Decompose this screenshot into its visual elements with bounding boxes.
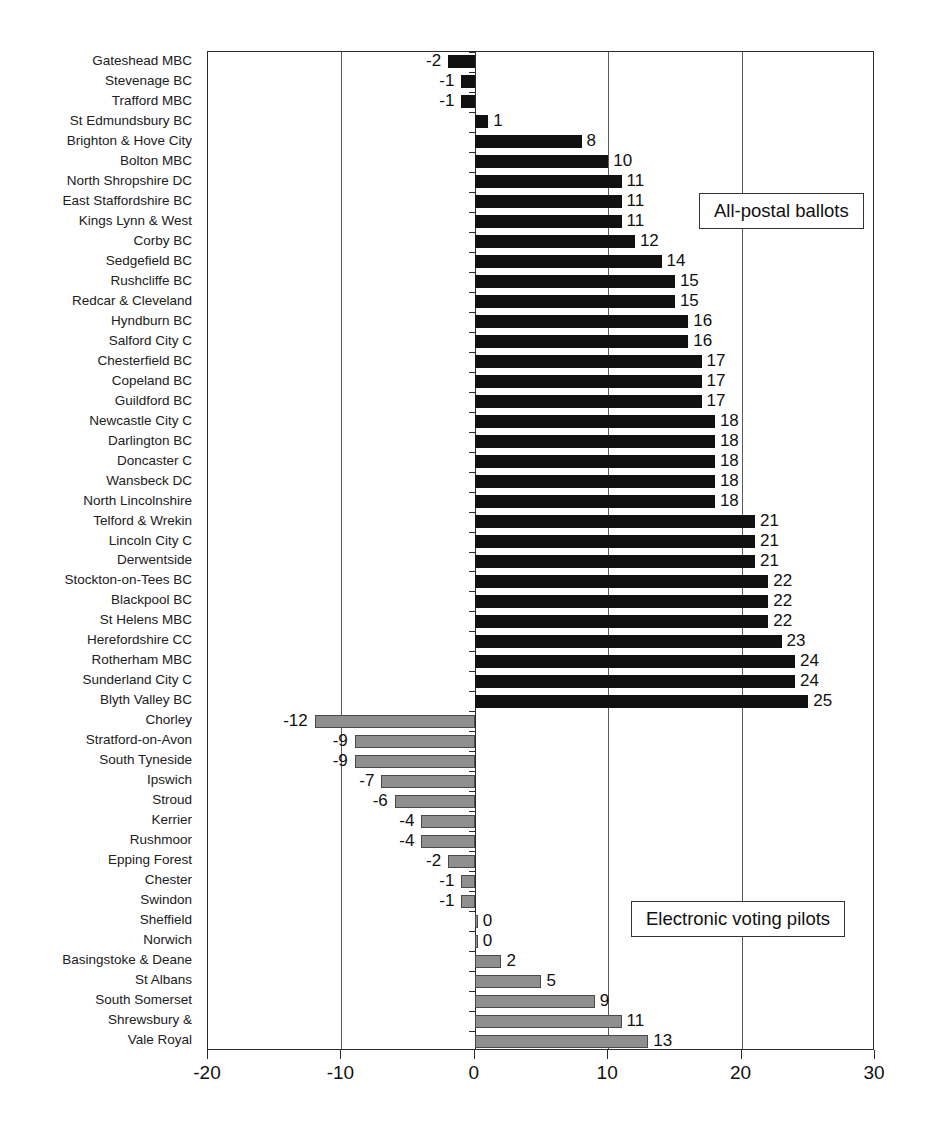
bar xyxy=(475,195,622,208)
bar-value-label: 5 xyxy=(547,974,556,987)
category-label: Corby BC xyxy=(133,234,192,248)
bar xyxy=(475,375,702,388)
category-label: Stroud xyxy=(152,793,192,807)
gridline xyxy=(341,52,342,1049)
bar-chart: Gateshead MBCStevenage BCTrafford MBCSt … xyxy=(0,0,930,1140)
category-tick xyxy=(469,731,475,732)
bar xyxy=(475,595,768,608)
bar-value-label: 0 xyxy=(483,914,492,927)
category-label: Chester xyxy=(145,873,192,887)
bar xyxy=(475,635,782,648)
bar-value-label: 12 xyxy=(640,234,659,247)
bar-value-label: -2 xyxy=(426,854,441,867)
category-tick xyxy=(469,92,475,93)
bar xyxy=(475,275,675,288)
bar-value-label: -9 xyxy=(333,754,348,767)
bar xyxy=(475,215,622,228)
bar-value-label: 24 xyxy=(800,674,819,687)
category-tick xyxy=(469,132,475,133)
category-tick xyxy=(469,1031,475,1032)
category-label: Stockton-on-Tees BC xyxy=(64,573,192,587)
bar xyxy=(355,735,475,748)
x-axis-tick xyxy=(474,1050,475,1059)
category-tick xyxy=(469,711,475,712)
bar xyxy=(475,1035,648,1048)
category-tick xyxy=(469,192,475,193)
category-tick xyxy=(469,312,475,313)
bar xyxy=(475,415,715,428)
bar-value-label: 22 xyxy=(773,594,792,607)
bar xyxy=(475,675,795,688)
category-label: St Helens MBC xyxy=(100,613,192,627)
bar xyxy=(475,695,809,708)
category-tick xyxy=(469,532,475,533)
category-tick xyxy=(469,771,475,772)
category-tick xyxy=(469,811,475,812)
bar xyxy=(475,935,478,948)
bar-value-label: 18 xyxy=(720,414,739,427)
category-label: Salford City C xyxy=(109,334,192,348)
category-label: Rotherham MBC xyxy=(91,653,192,667)
category-label: Trafford MBC xyxy=(112,94,192,108)
bar xyxy=(475,555,755,568)
bar xyxy=(475,515,755,528)
bar-value-label: 11 xyxy=(627,174,645,187)
category-tick xyxy=(469,152,475,153)
category-label: Shrewsbury & xyxy=(108,1013,192,1027)
bar xyxy=(475,135,582,148)
category-tick xyxy=(469,591,475,592)
bar xyxy=(475,455,715,468)
bar xyxy=(461,895,474,908)
bar xyxy=(475,115,488,128)
bar-value-label: 13 xyxy=(653,1034,672,1047)
category-tick xyxy=(469,831,475,832)
bar-value-label: 22 xyxy=(773,614,792,627)
category-tick xyxy=(469,252,475,253)
bar-value-label: 1 xyxy=(493,114,502,127)
category-label: East Staffordshire BC xyxy=(62,194,192,208)
category-tick xyxy=(469,891,475,892)
category-label: Stratford-on-Avon xyxy=(86,733,192,747)
bar-value-label: 15 xyxy=(680,294,699,307)
category-tick xyxy=(469,352,475,353)
category-label: North Lincolnshire xyxy=(83,494,192,508)
bar-value-label: 18 xyxy=(720,494,739,507)
bar-value-label: 21 xyxy=(760,554,779,567)
category-tick xyxy=(469,951,475,952)
category-label: Copeland BC xyxy=(112,374,192,388)
bar xyxy=(421,815,474,828)
bar-value-label: -1 xyxy=(439,894,454,907)
category-label: Derwentside xyxy=(117,553,192,567)
bar xyxy=(355,755,475,768)
category-label: St Edmundsbury BC xyxy=(70,114,192,128)
bar-value-label: -1 xyxy=(439,74,454,87)
category-tick xyxy=(469,651,475,652)
category-label: Basingstoke & Deane xyxy=(62,953,192,967)
category-tick xyxy=(469,112,475,113)
bar-value-label: 17 xyxy=(707,374,726,387)
bar xyxy=(448,855,475,868)
category-tick xyxy=(469,332,475,333)
bar-value-label: 15 xyxy=(680,274,699,287)
x-axis-tick xyxy=(741,1050,742,1059)
category-tick xyxy=(469,991,475,992)
category-tick xyxy=(469,212,475,213)
bar-value-label: 10 xyxy=(613,154,632,167)
x-axis-tick xyxy=(607,1050,608,1059)
category-label: Telford & Wrekin xyxy=(93,514,192,528)
bar-value-label: 16 xyxy=(693,314,712,327)
category-label: Doncaster C xyxy=(117,454,192,468)
category-tick xyxy=(469,851,475,852)
category-tick xyxy=(469,232,475,233)
bar xyxy=(475,355,702,368)
category-tick xyxy=(469,452,475,453)
bar xyxy=(475,295,675,308)
bar xyxy=(475,255,662,268)
x-axis-ticks xyxy=(207,1050,874,1060)
bar-value-label: 24 xyxy=(800,654,819,667)
bar-value-label: 9 xyxy=(600,994,609,1007)
category-tick xyxy=(469,671,475,672)
category-label: Brighton & Hove City xyxy=(67,134,192,148)
bar xyxy=(448,55,475,68)
bar xyxy=(381,775,474,788)
